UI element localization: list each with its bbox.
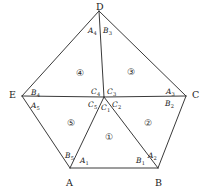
region-4: ④ [76, 69, 84, 78]
angle-C2: C2 [112, 101, 121, 109]
region-5: ⑤ [67, 119, 75, 128]
pentagon-diagram: D E C A B A1A2A3A4A5B1B2B3B4B5C1C2C3C4C5… [0, 0, 208, 193]
angle-B4: B4 [31, 89, 40, 97]
angle-B1: B1 [136, 157, 145, 165]
angle-C4: C4 [91, 88, 100, 96]
vertex-label-A: A [66, 178, 73, 188]
region-1: ① [105, 133, 113, 142]
angle-A3: A3 [166, 88, 175, 96]
angle-C1: C1 [101, 104, 110, 112]
angle-B5: B5 [65, 152, 74, 160]
vertex-label-C: C [192, 90, 199, 100]
region-2: ② [144, 119, 152, 128]
angle-A2: A2 [148, 152, 157, 160]
edge-C-D [99, 11, 186, 96]
angle-C5: C5 [88, 101, 97, 109]
angle-C3: C3 [107, 88, 116, 96]
vertex-label-D: D [96, 2, 104, 12]
angle-B3: B3 [103, 27, 112, 35]
angle-A1: A1 [80, 157, 89, 165]
vertex-label-B: B [155, 178, 162, 188]
edge-D-E [22, 11, 99, 96]
region-3: ③ [127, 68, 135, 77]
edge-E-A [22, 96, 70, 168]
cevian-D-center [99, 11, 104, 97]
angle-B2: B2 [165, 100, 174, 108]
vertex-label-E: E [9, 90, 16, 100]
angle-A4: A4 [88, 27, 97, 35]
angle-A5: A5 [31, 102, 40, 110]
